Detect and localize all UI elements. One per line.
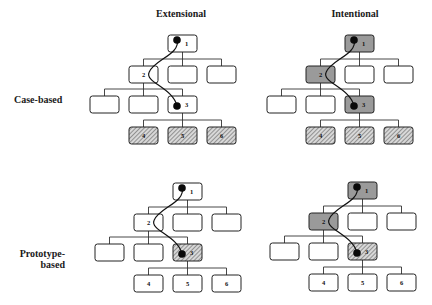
tree-node xyxy=(90,96,119,113)
tree-node xyxy=(345,66,374,83)
node-box xyxy=(95,244,124,261)
node-box xyxy=(348,213,377,230)
tree-node-3: 3 xyxy=(348,243,377,260)
column-title-intentional: Intentional xyxy=(331,8,378,19)
row-title-case-based: Case-based xyxy=(14,94,63,105)
node-number: 1 xyxy=(190,188,193,195)
tree-node xyxy=(384,66,413,83)
tree-node xyxy=(95,244,124,261)
tree-node xyxy=(168,66,197,83)
node-number: 2 xyxy=(147,219,150,226)
tree-node-5: 5 xyxy=(168,127,197,144)
position-marker-icon xyxy=(173,102,181,110)
tree-node-5: 5 xyxy=(345,127,374,144)
node-box xyxy=(267,96,296,113)
node-box xyxy=(168,66,197,83)
node-box xyxy=(168,96,197,113)
node-box xyxy=(348,182,377,199)
tree-node-4: 4 xyxy=(306,127,335,144)
tree-node-3: 3 xyxy=(168,96,197,113)
node-box xyxy=(173,244,202,261)
node-box xyxy=(345,96,374,113)
tree-node-4: 4 xyxy=(129,127,158,144)
node-box xyxy=(387,213,416,230)
tree-node xyxy=(270,243,299,260)
node-box xyxy=(134,244,163,261)
position-marker-icon xyxy=(350,102,358,110)
node-box xyxy=(212,214,241,231)
tree-node-4: 4 xyxy=(309,274,338,291)
tree-prototype-based-intentional: 123456 xyxy=(270,182,416,291)
node-box xyxy=(207,66,236,83)
node-number: 2 xyxy=(142,71,145,78)
position-marker-icon xyxy=(353,183,361,191)
tree-node xyxy=(309,243,338,260)
node-number: 1 xyxy=(365,187,368,194)
tree-node-5: 5 xyxy=(348,274,377,291)
tree-node-5: 5 xyxy=(173,275,202,292)
tree-node-1: 1 xyxy=(345,35,374,52)
tree-node-6: 6 xyxy=(207,127,236,144)
node-number: 2 xyxy=(319,71,322,78)
tree-node-2: 2 xyxy=(306,66,335,83)
position-marker-icon xyxy=(353,249,361,257)
tree-node xyxy=(267,96,296,113)
node-number: 1 xyxy=(362,40,365,47)
position-marker-icon xyxy=(350,36,358,44)
position-marker-icon xyxy=(178,250,186,258)
tree-node xyxy=(129,96,158,113)
tree-node-1: 1 xyxy=(348,182,377,199)
diagram-canvas: Extensional Intentional Case-based Proto… xyxy=(0,0,432,305)
node-number: 2 xyxy=(322,218,325,225)
node-box xyxy=(345,35,374,52)
tree-node-1: 1 xyxy=(168,35,197,52)
tree-node-6: 6 xyxy=(384,127,413,144)
column-title-extensional: Extensional xyxy=(156,8,206,19)
node-box xyxy=(384,66,413,83)
node-box xyxy=(173,183,202,200)
tree-node-6: 6 xyxy=(212,275,241,292)
node-box xyxy=(345,66,374,83)
tree-case-based-intentional: 123456 xyxy=(267,35,413,144)
tree-node xyxy=(173,214,202,231)
node-box xyxy=(306,96,335,113)
node-box xyxy=(168,35,197,52)
tree-node-2: 2 xyxy=(129,66,158,83)
tree-node xyxy=(207,66,236,83)
node-box xyxy=(173,214,202,231)
tree-node-2: 2 xyxy=(309,213,338,230)
node-box xyxy=(309,243,338,260)
tree-node-2: 2 xyxy=(134,214,163,231)
tree-node xyxy=(134,244,163,261)
tree-node xyxy=(306,96,335,113)
tree-prototype-based-extensional: 123456 xyxy=(95,183,241,292)
tree-case-based-extensional: 123456 xyxy=(90,35,236,144)
tree-node xyxy=(348,213,377,230)
position-marker-icon xyxy=(178,184,186,192)
tree-node-6: 6 xyxy=(387,274,416,291)
node-box xyxy=(348,243,377,260)
tree-node-1: 1 xyxy=(173,183,202,200)
node-number: 1 xyxy=(185,40,188,47)
tree-node-4: 4 xyxy=(134,275,163,292)
node-box xyxy=(270,243,299,260)
row-title-prototype-based-line2: based xyxy=(41,259,66,270)
tree-node xyxy=(387,213,416,230)
tree-node xyxy=(212,214,241,231)
node-box xyxy=(90,96,119,113)
position-marker-icon xyxy=(173,36,181,44)
tree-node-3: 3 xyxy=(173,244,202,261)
node-box xyxy=(129,96,158,113)
row-title-prototype-based-line1: Prototype- xyxy=(20,248,65,259)
tree-node-3: 3 xyxy=(345,96,374,113)
